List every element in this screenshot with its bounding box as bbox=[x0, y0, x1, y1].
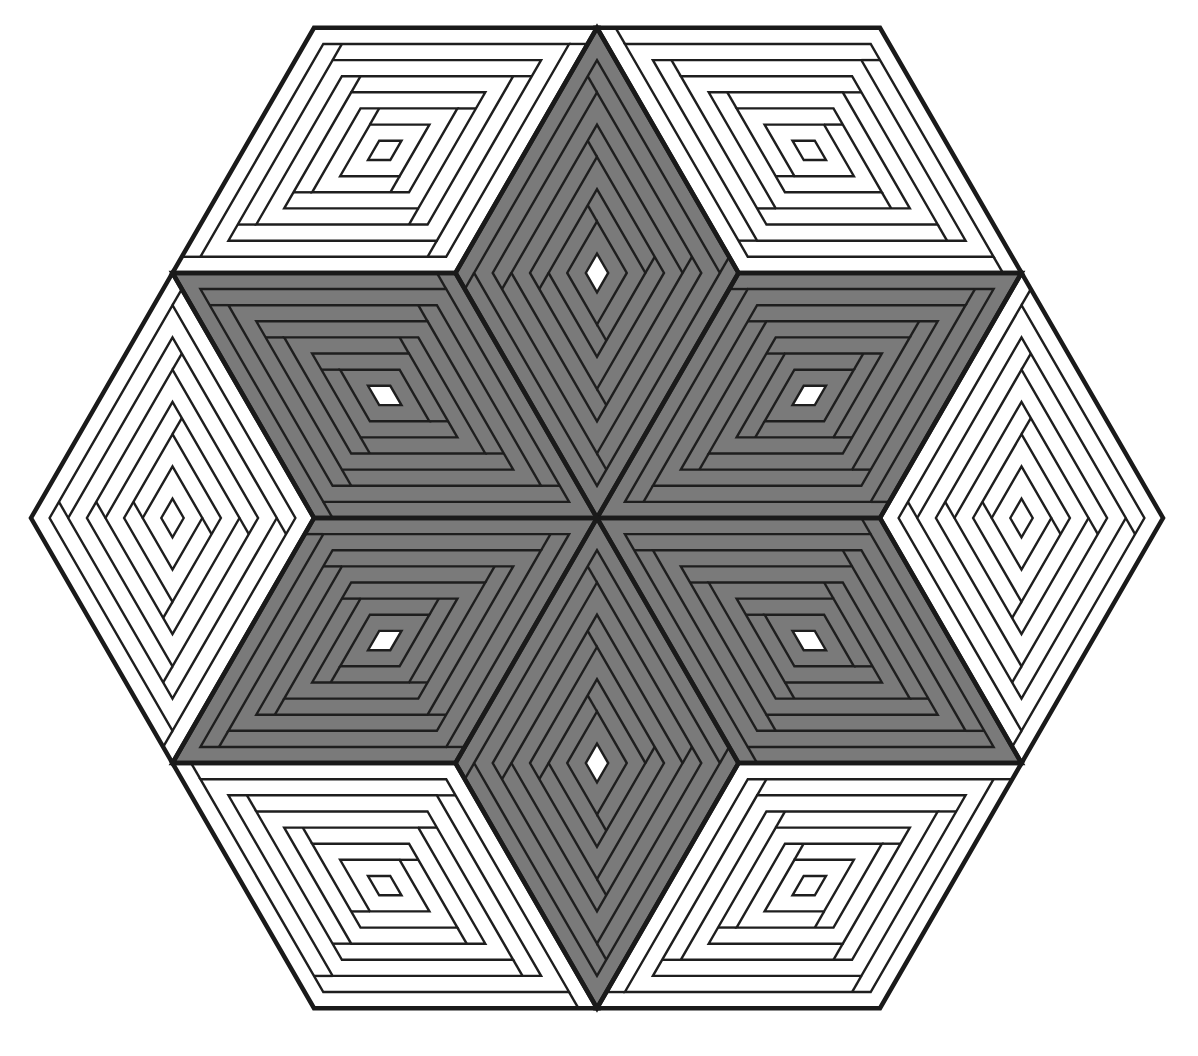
quilt-diagram bbox=[0, 0, 1198, 1056]
